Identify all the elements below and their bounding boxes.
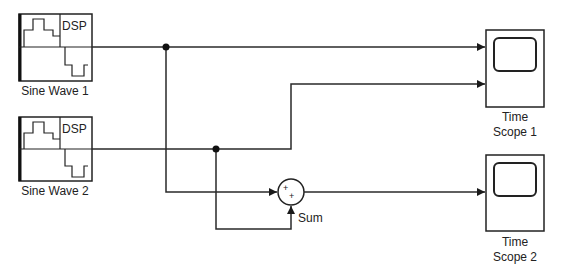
- time-scope-2-block[interactable]: [486, 155, 544, 231]
- dsp-icon-text-2: DSP: [62, 123, 87, 135]
- branch-point-2: [213, 146, 220, 153]
- time-scope-2-label-line1: Time: [480, 235, 550, 249]
- dsp-icon-text-1: DSP: [62, 20, 87, 32]
- sine-wave-1-label: Sine Wave 1: [0, 84, 110, 98]
- sine-wave-2-label: Sine Wave 2: [0, 184, 110, 198]
- time-scope-1-label-line2: Scope 1: [480, 125, 550, 139]
- line-sine2-scope1: [92, 84, 485, 149]
- sum-block[interactable]: + +: [278, 179, 304, 205]
- time-scope-1-label-line1: Time: [480, 110, 550, 124]
- line-sine1-sum: [166, 47, 277, 192]
- time-scope-2-label-line2: Scope 2: [480, 250, 550, 264]
- branch-point-1: [163, 44, 170, 51]
- block-diagram-canvas: + +: [0, 0, 561, 276]
- sum-sign-2: +: [289, 191, 294, 201]
- time-scope-1-block[interactable]: [486, 30, 544, 107]
- sum-label: Sum: [298, 211, 323, 225]
- sum-sign-1: +: [283, 183, 288, 193]
